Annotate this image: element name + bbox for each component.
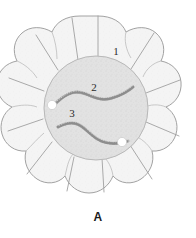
inner-body-texture [44, 56, 148, 160]
white-vesicle-right [117, 137, 126, 146]
label-1: 1 [113, 45, 119, 57]
figure-label-A: A [0, 210, 196, 224]
label-2: 2 [91, 81, 97, 93]
cell-cross-section-diagram: 1 2 3 [0, 0, 196, 238]
white-vesicle-left [47, 100, 56, 109]
inner-cytoplasm [44, 56, 148, 160]
label-3: 3 [69, 107, 75, 119]
figure-container: 1 2 3 A [0, 0, 196, 238]
